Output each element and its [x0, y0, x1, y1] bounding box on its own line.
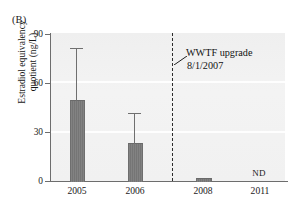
bar-2005	[70, 100, 85, 182]
y-axis-title: Estradiol equivalency quotient (ng/L)	[13, 0, 43, 142]
y-tick-mark-60	[45, 83, 51, 84]
y-tick-mark-30	[45, 132, 51, 133]
y-tick-label-30: 30	[3, 127, 43, 137]
error-bar-stem-2005	[76, 48, 77, 101]
y-tick-label-0: 0	[3, 176, 43, 186]
bar-2006	[128, 143, 143, 182]
annotation-line-2: 8/1/2007	[186, 60, 252, 73]
figure-panel-b: (B) Estradiol equivalency quotient (ng/L…	[0, 0, 295, 215]
error-bar-cap-2005	[70, 48, 83, 49]
x-tick-label-2011: 2011	[230, 185, 290, 196]
y-axis-line	[50, 33, 51, 182]
error-bar-cap-2006	[128, 113, 141, 114]
bar-2008	[196, 178, 212, 182]
gridline-60	[51, 81, 285, 83]
y-tick-mark-90	[45, 34, 51, 35]
nd-label: ND	[239, 168, 279, 178]
y-tick-label-90: 90	[3, 29, 43, 39]
wwtf-upgrade-reference-line	[172, 33, 173, 181]
annotation-line-1: WWTF upgrade	[186, 47, 252, 60]
y-tick-mark-0	[45, 181, 51, 182]
x-tick-label-2005: 2005	[47, 185, 107, 196]
y-tick-label-60: 60	[3, 78, 43, 88]
wwtf-upgrade-annotation: WWTF upgrade 8/1/2007	[186, 47, 252, 72]
error-bar-stem-2006	[134, 113, 135, 144]
gridline-30	[51, 131, 285, 133]
x-tick-label-2008: 2008	[173, 185, 233, 196]
x-tick-label-2006: 2006	[105, 185, 165, 196]
